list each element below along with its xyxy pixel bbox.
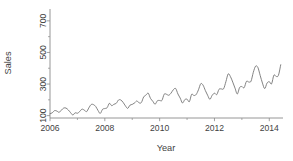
- y-axis-tick-labels: 100300500700: [39, 13, 49, 122]
- x-tick-label-2006: 2006: [40, 123, 59, 133]
- y-axis-tick-marks: [47, 21, 50, 116]
- y-axis-title: Sales: [3, 51, 13, 74]
- y-tick-label-100: 100: [39, 108, 49, 123]
- x-tick-label-2014: 2014: [260, 123, 279, 133]
- chart-figure: 100300500700 20062008201020122014 Sales …: [0, 0, 293, 161]
- x-axis-title: Year: [157, 143, 176, 153]
- plot-panel-background: [50, 9, 283, 118]
- x-tick-label-2008: 2008: [95, 123, 114, 133]
- x-tick-label-2012: 2012: [205, 123, 224, 133]
- x-axis-tick-labels: 20062008201020122014: [40, 123, 279, 133]
- y-tick-label-500: 500: [39, 45, 49, 60]
- x-tick-label-2010: 2010: [150, 123, 169, 133]
- y-tick-label-700: 700: [39, 13, 49, 28]
- sales-time-series-chart: 100300500700 20062008201020122014 Sales …: [0, 0, 293, 161]
- x-axis-tick-marks: [50, 118, 269, 121]
- y-tick-label-300: 300: [39, 77, 49, 92]
